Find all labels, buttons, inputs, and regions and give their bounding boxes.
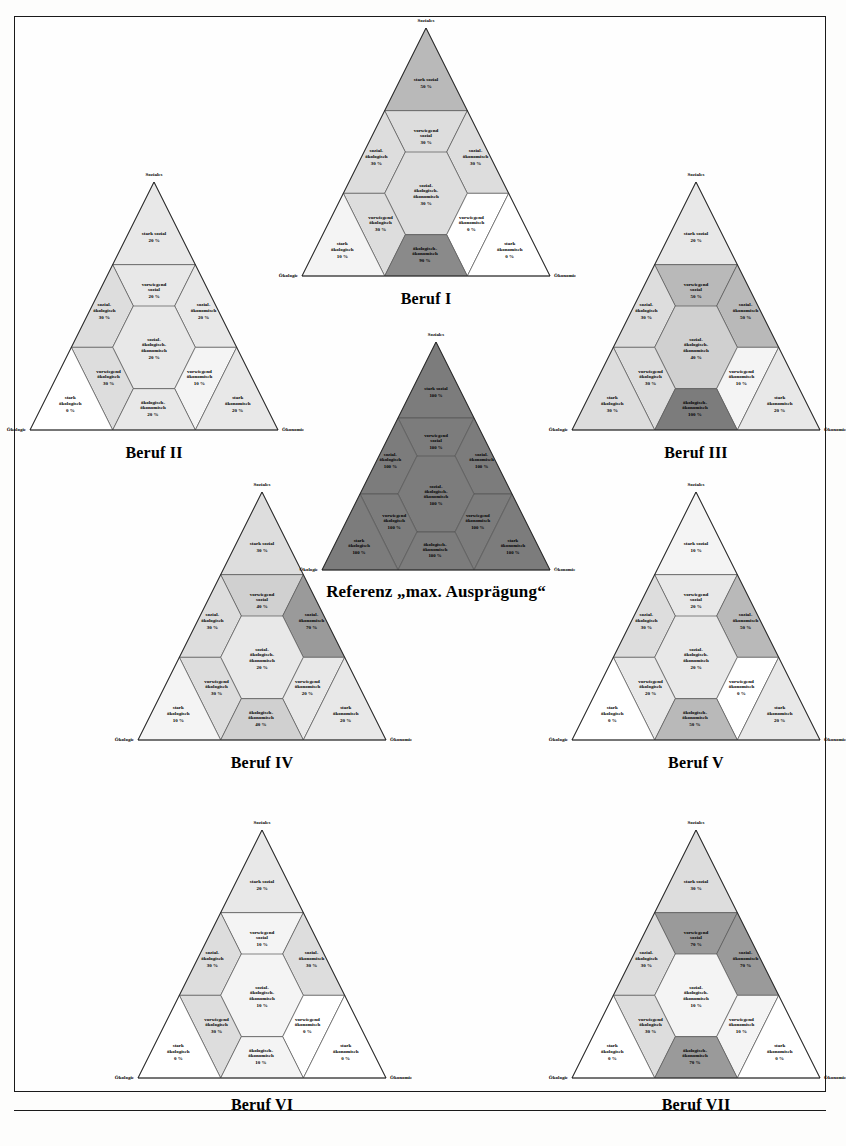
cell-label-stark-oekologisch: stark [607, 395, 618, 400]
cell-label-sozial-oekologisch: sozial- [206, 950, 220, 955]
cell-value-stark-oekonomisch: 0 % [341, 1056, 350, 1061]
cell-value-vorwiegend-sozial: 40 % [256, 604, 267, 609]
cell-value-vorwiegend-oekologisch: 30 % [211, 1029, 222, 1034]
corner-label-oekonomie: Ökonomie [390, 737, 412, 742]
cell-value-zentrum: 10 % [690, 1003, 701, 1008]
cell-value-oekologisch-oekonomisch: 50 % [689, 722, 700, 727]
cell-value-vorwiegend-oekonomisch: 10 % [194, 381, 205, 386]
cell-value-sozial-oekonomisch: 70 % [306, 625, 317, 630]
cell-stark-sozial[interactable] [221, 492, 304, 575]
cell-label-zentrum: ökonomisch [141, 348, 167, 353]
cell-label-vorwiegend-oekologisch: ökologisch [639, 1022, 662, 1027]
cell-label-oekologisch-oekonomisch: ökonomisch [248, 1053, 274, 1058]
cell-label-zentrum: ökonomisch [683, 996, 709, 1001]
cell-value-vorwiegend-oekonomisch: 10 % [736, 1029, 747, 1034]
cell-value-stark-oekologisch: 0 % [608, 718, 617, 723]
cell-label-vorwiegend-oekologisch: ökologisch [97, 374, 120, 379]
cell-label-zentrum: ökonomisch [683, 658, 709, 663]
cell-value-stark-sozial: 30 % [690, 886, 701, 891]
nachhaltigkeitsdreieck: stark sozial20 %vorwiegendsozial20 %sozi… [4, 156, 304, 446]
cell-label-zentrum: sozial- [147, 337, 161, 342]
cell-label-stark-sozial: stark sozial [142, 231, 167, 236]
cell-label-stark-oekologisch: ökologisch [167, 1049, 190, 1054]
cell-value-vorwiegend-oekologisch: 30 % [375, 227, 386, 232]
corner-label-oekologie: Ökologie [549, 737, 569, 742]
cell-label-vorwiegend-oekonomisch: vorwiegend [187, 369, 212, 374]
cell-stark-sozial[interactable] [398, 342, 474, 418]
cell-value-vorwiegend-oekonomisch: 10 % [736, 381, 747, 386]
cell-value-stark-oekologisch: 0 % [608, 1056, 617, 1061]
nachhaltigkeitsdreieck: stark sozial20 %vorwiegendsozial50 %sozi… [546, 156, 846, 446]
cell-value-zentrum: 40 % [690, 355, 701, 360]
cell-value-sozial-oekonomisch: 20 % [198, 315, 209, 320]
cell-label-vorwiegend-oekonomisch: ökonomisch [729, 684, 755, 689]
cell-value-vorwiegend-sozial: 100 % [429, 445, 442, 450]
cell-label-stark-oekologisch: stark [607, 1043, 618, 1048]
cell-label-sozial-oekologisch: sozial- [206, 612, 220, 617]
cell-value-stark-oekologisch: 0 % [174, 1056, 183, 1061]
cell-value-vorwiegend-sozial: 50 % [690, 294, 701, 299]
cell-label-vorwiegend-oekonomisch: ökonomisch [295, 684, 321, 689]
cell-value-vorwiegend-oekonomisch: 0 % [467, 227, 476, 232]
corner-label-soziales: Soziales [688, 172, 705, 177]
cell-stark-sozial[interactable] [655, 492, 738, 575]
caption-beruf-5: Beruf V [546, 754, 846, 772]
cell-value-vorwiegend-sozial: 20 % [148, 294, 159, 299]
cell-label-vorwiegend-oekologisch: vorwiegend [204, 679, 229, 684]
cell-label-stark-oekonomisch: ökonomisch [225, 401, 251, 406]
cell-label-sozial-oekologisch: sozial- [370, 148, 384, 153]
cell-label-vorwiegend-oekonomisch: ökonomisch [466, 518, 491, 523]
cell-label-vorwiegend-oekologisch: vorwiegend [204, 1017, 229, 1022]
cell-label-stark-oekologisch: ökologisch [348, 543, 370, 548]
cell-value-sozial-oekonomisch: 50 % [740, 625, 751, 630]
nachhaltigkeitsdreieck: stark sozial50 %vorwiegendsozial30 %sozi… [276, 2, 576, 292]
cell-label-sozial-oekonomisch: sozial- [305, 612, 319, 617]
cell-value-vorwiegend-sozial: 30 % [420, 140, 431, 145]
caption-beruf-7: Beruf VII [546, 1096, 846, 1114]
cell-label-zentrum: sozial- [689, 647, 703, 652]
cell-label-stark-sozial: stark sozial [250, 879, 275, 884]
corner-label-soziales: Soziales [428, 332, 444, 337]
cell-label-stark-oekologisch: ökologisch [601, 1049, 624, 1054]
cell-label-vorwiegend-oekonomisch: ökonomisch [187, 374, 213, 379]
cell-stark-sozial[interactable] [221, 830, 304, 913]
chart-beruf-6: stark sozial20 %vorwiegendsozial10 %sozi… [112, 804, 412, 1094]
corner-label-soziales: Soziales [146, 172, 163, 177]
cell-value-sozial-oekologisch: 30 % [641, 625, 652, 630]
cell-label-sozial-oekonomisch: ökonomisch [299, 956, 325, 961]
cell-stark-sozial[interactable] [113, 182, 196, 265]
cell-stark-sozial[interactable] [385, 28, 468, 111]
cell-stark-sozial[interactable] [655, 182, 738, 265]
cell-label-oekologisch-oekonomisch: ökologisch- [683, 710, 708, 715]
cell-label-vorwiegend-oekologisch: vorwiegend [368, 215, 393, 220]
cell-stark-sozial[interactable] [655, 830, 738, 913]
cell-value-stark-oekonomisch: 100 % [506, 550, 519, 555]
cell-label-stark-oekonomisch: stark [774, 1043, 785, 1048]
cell-label-sozial-oekologisch: ökologisch [93, 308, 116, 313]
cell-label-sozial-oekologisch: sozial- [640, 612, 654, 617]
cell-value-stark-sozial: 100 % [429, 393, 442, 398]
cell-label-oekologisch-oekonomisch: ökonomisch [140, 405, 166, 410]
cell-label-stark-oekonomisch: ökonomisch [333, 1049, 359, 1054]
cell-label-sozial-oekonomisch: sozial- [197, 302, 211, 307]
nachhaltigkeitsdreieck: stark sozial20 %vorwiegendsozial10 %sozi… [112, 804, 412, 1094]
cell-value-vorwiegend-oekologisch: 30 % [211, 691, 222, 696]
cell-label-stark-oekologisch: ökologisch [601, 401, 624, 406]
cell-value-sozial-oekologisch: 30 % [641, 963, 652, 968]
cell-label-vorwiegend-oekologisch: vorwiegend [638, 1017, 663, 1022]
cell-label-stark-oekonomisch: ökonomisch [767, 1049, 793, 1054]
nachhaltigkeitsdreieck: stark sozial100 %vorwiegendsozial100 %so… [296, 316, 576, 586]
corner-label-soziales: Soziales [254, 820, 271, 825]
cell-label-sozial-oekonomisch: sozial- [739, 612, 753, 617]
corner-label-oekonomie: Ökonomie [554, 567, 575, 572]
cell-value-oekologisch-oekonomisch: 10 % [255, 1060, 266, 1065]
cell-label-zentrum: sozial- [689, 337, 703, 342]
cell-value-stark-sozial: 20 % [690, 238, 701, 243]
cell-value-vorwiegend-oekonomisch: 0 % [303, 1029, 312, 1034]
cell-value-stark-oekologisch: 30 % [607, 408, 618, 413]
cell-value-zentrum: 30 % [420, 201, 431, 206]
cell-label-sozial-oekonomisch: sozial- [469, 148, 483, 153]
chart-beruf-1: stark sozial50 %vorwiegendsozial30 %sozi… [276, 2, 576, 292]
corner-label-soziales: Soziales [688, 482, 705, 487]
cell-label-vorwiegend-oekonomisch: vorwiegend [295, 679, 320, 684]
